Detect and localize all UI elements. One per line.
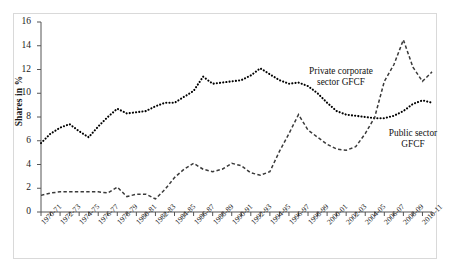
annotation-private-line1: Private corporate: [309, 66, 373, 76]
chart-figure: Shares in % 0246810121416 1970-711972-73…: [0, 0, 451, 277]
y-axis-tick-label: 6: [9, 135, 31, 145]
y-axis-tick-label: 10: [9, 87, 31, 97]
annotation-private-line2: sector GFCF: [317, 77, 365, 87]
y-axis-ticks: [37, 22, 41, 212]
annotation-public-line1: Public sector: [389, 128, 437, 138]
series-line-private-corporate-sector-gfcf: [41, 40, 432, 199]
y-axis-tick-label: 8: [9, 111, 31, 121]
y-axis-tick-label: 16: [9, 16, 31, 26]
y-axis-tick-label: 14: [9, 40, 31, 50]
annotation-public-line2: GFCF: [401, 139, 424, 149]
y-axis-tick-label: 2: [9, 182, 31, 192]
annotation-private-corporate-gfcf: Private corporate sector GFCF: [289, 66, 393, 88]
y-axis-tick-label: 4: [9, 159, 31, 169]
y-axis-tick-label: 12: [9, 64, 31, 74]
y-axis-tick-label: 0: [9, 206, 31, 216]
series-layer: [41, 40, 432, 199]
annotation-public-sector-gfcf: Public sector GFCF: [377, 128, 449, 150]
